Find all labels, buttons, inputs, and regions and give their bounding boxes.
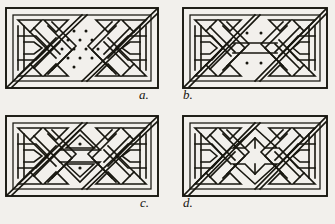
panel-label-b: b. — [183, 88, 193, 101]
interlace-drawing-c — [4, 114, 160, 198]
figure-plate: a. — [0, 0, 335, 224]
centre-dot-field-c — [78, 142, 81, 169]
interlace-drawing-b — [181, 6, 329, 90]
interlace-panel-b — [181, 6, 329, 90]
panel-label-a: a. — [139, 88, 149, 101]
panel-label-c: c. — [140, 196, 149, 209]
interlace-panel-d — [181, 114, 329, 198]
interlace-panel-a — [4, 6, 160, 90]
interlace-drawing-d — [181, 114, 329, 198]
interlace-panel-c — [4, 114, 160, 198]
interlace-drawing-a — [4, 6, 160, 90]
panel-label-d: d. — [183, 196, 193, 209]
centre-dot-field-b — [246, 32, 263, 65]
